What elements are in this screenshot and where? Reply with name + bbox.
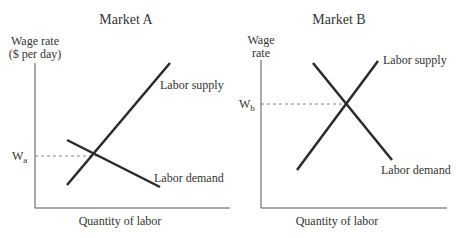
market-a-wage-label: Wa [12,149,27,165]
market-a-demand-label: Labor demand [154,171,224,185]
market-b-title: Market B [312,12,365,27]
market-a-demand-curve [67,140,160,187]
market-b-y-label-2: rate [252,46,270,60]
market-a-title: Market A [99,12,153,27]
market-b-demand-label: Labor demand [381,163,451,177]
labor-market-diagrams: Market A Wage rate ($ per day) Quantity … [0,0,457,238]
market-b-x-label: Quantity of labor [296,214,379,228]
market-b-supply-curve [297,61,378,170]
market-a-panel: Market A Wage rate ($ per day) Quantity … [9,12,230,228]
market-a-x-label: Quantity of labor [79,214,162,228]
market-b-panel: Market B Wage rate Quantity of labor Wb … [239,12,451,228]
market-b-demand-curve [313,63,392,160]
market-b-y-label-1: Wage [247,33,274,47]
market-a-y-label-2: ($ per day) [9,47,62,61]
market-a-y-label-1: Wage rate [11,34,59,48]
market-b-supply-label: Labor supply [383,53,447,67]
market-b-wage-label: Wb [239,97,255,113]
market-a-supply-label: Labor supply [160,78,224,92]
